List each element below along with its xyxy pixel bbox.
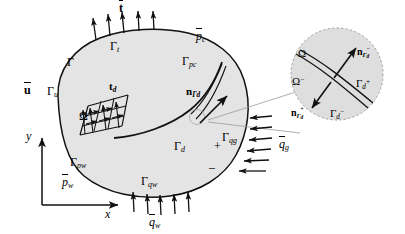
normal-vector-label: nΓd: [186, 86, 200, 99]
domain-omega-label: Ω: [79, 110, 88, 122]
figure-root: t Γt Γ u Γu Ω td nΓd pc Γpc Γd +: [0, 0, 405, 234]
boundary-gamma-qg-label: Γqg: [222, 131, 237, 145]
crack-plus-sign: +: [214, 140, 221, 152]
traction-top-label: t: [119, 2, 123, 14]
boundary-gamma-t-label: Γt: [110, 40, 119, 54]
inset-normal-minus-label: nΓ−d: [357, 47, 369, 59]
flux-g-label: qg: [279, 138, 289, 152]
inset-omega-plus-label: Ω: [298, 48, 306, 59]
boundary-gamma-pw-label: Γpw: [70, 156, 86, 170]
boundary-gamma-label: Γ: [67, 56, 74, 68]
boundary-gamma-pc-label: Γpc: [182, 55, 196, 69]
inset-gamma-d-plus-label: Γd+: [356, 78, 370, 91]
inset-gamma-d-minus-label: Γd−: [330, 108, 344, 121]
boundary-gamma-d-label: Γd: [174, 140, 185, 154]
boundary-gamma-u-label: Γu: [47, 85, 58, 99]
cohesive-traction-label: td: [109, 81, 116, 94]
axis-x-label: x: [105, 208, 110, 220]
flux-w-label: qw: [149, 216, 160, 230]
crack-minus-sign: −: [208, 162, 215, 175]
inset-omega-minus-label: Ω−: [292, 76, 304, 87]
axis-y-label: y: [26, 130, 31, 142]
pressure-c-label: pc: [196, 30, 206, 44]
boundary-gamma-qw-label: Γqw: [141, 175, 157, 189]
pressure-w-label: pw: [62, 176, 73, 190]
inset-normal-plus-label: nΓ+d: [291, 108, 303, 120]
displacement-bc-label: u: [24, 84, 31, 96]
inset-magnifier: [291, 28, 383, 120]
